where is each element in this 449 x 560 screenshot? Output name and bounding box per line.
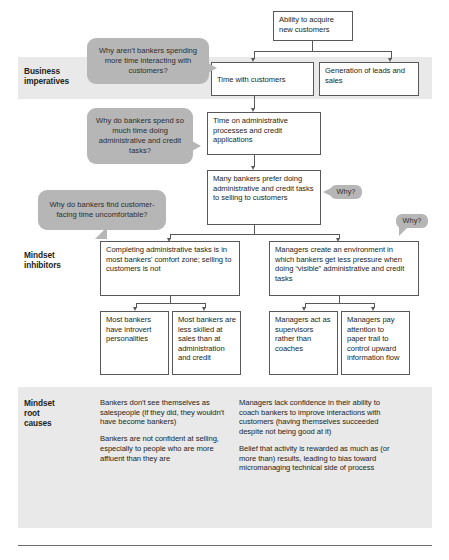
callout-why-do-bankers-spend[interactable]: Why do bankers spend so much time doing … [87, 108, 193, 164]
callout-tail-why-2 [399, 226, 409, 236]
root-cause-right-2: Belief that activity is rewarded as much… [239, 444, 399, 473]
box-time-with-customers[interactable]: Time with customers [211, 62, 314, 96]
connector-top-stem [312, 41, 313, 51]
callout-why-arent-bankers[interactable]: Why aren't bankers spending more time in… [87, 38, 209, 84]
box-many-bankers-prefer[interactable]: Many bankers prefer doing administrative… [207, 170, 321, 225]
row-label-business-imperatives-line1: Business [24, 66, 94, 76]
connector-right-children-split [305, 303, 374, 304]
box-most-bankers-less-skilled[interactable]: Most bankers are less skilled at sales t… [172, 311, 241, 375]
row-label-business-imperatives-line2: imperatives [24, 76, 94, 86]
callout-why-2[interactable]: Why? [396, 214, 428, 228]
callout-why-do-bankers-spend-text: Why do bankers spend so much time doing … [87, 108, 193, 164]
box-managers-pay-attention[interactable]: Managers pay attention to paper trail to… [341, 311, 410, 375]
diagram-canvas: Business imperatives Mindset inhibitors … [0, 0, 449, 560]
connector-right-inhibitor-stem [339, 296, 340, 303]
box-managers-create-env[interactable]: Managers create an environment in which … [269, 241, 419, 296]
callout-why-1-text: Why? [330, 185, 362, 199]
connector-top-split [254, 51, 391, 52]
box-generation-of-leads[interactable]: Generation of leads and sales [319, 62, 419, 96]
row-label-mindset-root-causes-line1: Mindset [24, 398, 94, 408]
root-cause-right-1: Managers lack confidence in their abilit… [239, 398, 399, 437]
callout-why-do-bankers-find[interactable]: Why do bankers find customer-facing time… [38, 190, 166, 230]
callout-tail-why-do-bankers-find [95, 227, 107, 239]
box-ability-to-acquire[interactable]: Ability to acquire new customers [273, 11, 353, 41]
callout-tail-why-1 [323, 188, 331, 196]
root-cause-left-1: Bankers don't see themselves as salespeo… [100, 398, 232, 427]
row-label-mindset-root-causes-line3: causes [24, 418, 94, 428]
box-most-bankers-introvert[interactable]: Most bankers have introvert personalitie… [100, 311, 169, 375]
connector-left-children-split [136, 303, 205, 304]
root-causes-right-column: Managers lack confidence in their abilit… [239, 398, 399, 480]
root-cause-left-2: Bankers are not confident at selling, es… [100, 434, 232, 463]
footer-divider [18, 545, 432, 546]
box-managers-act-supervisors[interactable]: Managers act as supervisors rather than … [269, 311, 338, 375]
callout-tail-why-arent-bankers [206, 62, 217, 74]
row-label-mindset-inhibitors-line1: Mindset [24, 250, 94, 260]
connector-inhibitor-split [170, 234, 339, 235]
connector-left-inhibitor-stem [170, 296, 171, 303]
box-completing-admin[interactable]: Completing administrative tasks is in mo… [100, 241, 240, 296]
row-label-mindset-inhibitors: Mindset inhibitors [24, 250, 94, 270]
root-causes-left-column: Bankers don't see themselves as salespeo… [100, 398, 232, 470]
connector-prefer-stem [254, 225, 255, 234]
callout-why-do-bankers-find-text: Why do bankers find customer-facing time… [38, 190, 166, 230]
row-label-mindset-inhibitors-line2: inhibitors [24, 260, 94, 270]
box-time-on-admin[interactable]: Time on administrative processes and cre… [207, 112, 321, 155]
row-label-business-imperatives: Business imperatives [24, 66, 94, 86]
callout-why-1[interactable]: Why? [330, 185, 362, 199]
callout-why-arent-bankers-text: Why aren't bankers spending more time in… [87, 38, 209, 84]
callout-tail-why-do-bankers-spend [190, 140, 201, 152]
row-label-mindset-root-causes-line2: root [24, 408, 94, 418]
row-label-mindset-root-causes: Mindset root causes [24, 398, 94, 428]
